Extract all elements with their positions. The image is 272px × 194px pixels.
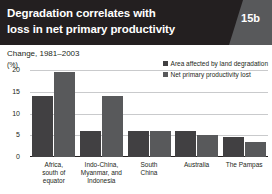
x-axis-tick-label: The Pampas [220,161,268,169]
bar-groups [30,70,268,157]
figure-number-tab: 15b [229,0,272,45]
header-divider [0,45,272,46]
bar [150,131,171,157]
legend-label: Area affected by land degradation [171,60,268,67]
figure-panel: Degradation correlates with loss in net … [0,0,272,194]
legend-swatch-icon [163,61,168,66]
bar-group [32,70,75,157]
y-axis-tick-label: 20 [0,66,20,73]
plot-area [30,70,268,157]
bar-group [223,70,266,157]
bar [245,142,266,157]
bar-group [175,70,218,157]
x-axis-tick-label: Indo-China,Myanmar, andIndonesia [78,161,126,185]
bar [32,96,53,157]
figure-number: 15b [229,12,272,24]
x-axis-tick-label: Australia [173,161,221,169]
y-axis-tick-label: 15 [0,88,20,95]
legend-item: Area affected by land degradation [163,59,268,68]
figure-title-line2: loss in net primary productivity [7,21,225,37]
y-axis-tick-label: 5 [0,131,20,138]
y-axis-labels: 05101520 [0,70,26,157]
y-axis-tick-label: 10 [0,110,20,117]
y-axis-tick-label: 0 [0,153,20,160]
bar [80,131,101,157]
bar-group [128,70,171,157]
bar [175,131,196,157]
bar [128,131,149,157]
chart-subtitle: Change, 1981–2003 [7,49,80,58]
figure-title: Degradation correlates with loss in net … [7,5,225,37]
x-axis-tick-label: Africa,south ofequator [30,161,78,185]
bar-group [80,70,123,157]
bar [102,96,123,157]
bar [54,72,75,157]
bar [223,137,244,157]
x-axis-tick-label: SouthChina [125,161,173,177]
bar [197,135,218,157]
figure-header: Degradation correlates with loss in net … [0,0,272,45]
figure-title-line1: Degradation correlates with [7,7,156,19]
